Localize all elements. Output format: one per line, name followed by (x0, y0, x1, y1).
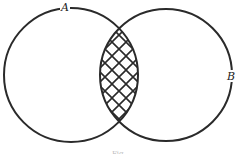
label-b: B (226, 70, 235, 83)
venn-diagram: A B Fig. (0, 0, 237, 154)
figure-caption: Fig. (112, 150, 126, 154)
label-a: A (60, 1, 69, 14)
